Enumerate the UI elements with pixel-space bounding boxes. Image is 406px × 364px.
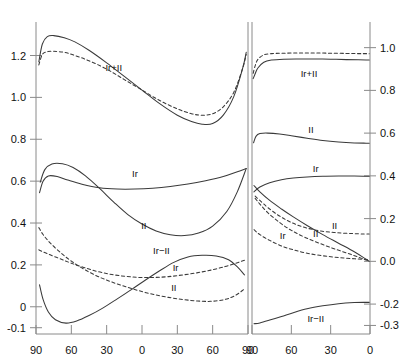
right-panel-curve-label: II (332, 220, 337, 231)
left-panel-xtick-label: 30 (101, 344, 113, 356)
right-panel-ytick-label: 0.0 (380, 255, 395, 267)
left-panel-curve-label: Ir (173, 262, 179, 273)
right-panel-ytick-label: -0.2 (380, 298, 399, 310)
figure-container: 1.21.00.80.60.40.20-0.19060300306090Ir+I… (0, 0, 406, 364)
right-panel-curve-ir-solid (254, 176, 369, 192)
left-panel-curve-label: Ir+II (105, 62, 122, 73)
left-panel-ytick-label: 0.6 (11, 175, 26, 187)
right-panel-ytick-label: -0.3 (380, 319, 399, 331)
right-panel-curve-label: Ir−II (307, 313, 324, 324)
left-panel-xtick-label: 30 (171, 344, 183, 356)
right-panel-curve-label: Ir (313, 163, 319, 174)
right-panel-curve-label: Ir+II (301, 68, 318, 79)
right-panel-ytick-label: 0.8 (380, 84, 395, 96)
right-panel-ytick-label: 1.0 (380, 42, 395, 54)
right-panel-xtick-label: 0 (367, 344, 373, 356)
left-panel-ytick-label: 0.8 (11, 133, 26, 145)
chart-svg: 1.21.00.80.60.40.20-0.19060300306090Ir+I… (0, 0, 406, 364)
left-panel-curve-label: II (171, 282, 176, 293)
right-panel-xtick-label: 90 (246, 344, 258, 356)
left-panel-ytick-label: 0.4 (11, 217, 26, 229)
left-panel-ytick-label: -0.1 (7, 322, 26, 334)
left-panel-xtick-label: 90 (30, 344, 42, 356)
right-panel-curve-ir-dashed (254, 230, 369, 260)
left-panel-xtick-label: 0 (139, 344, 145, 356)
left-panel-xtick-label: 60 (65, 344, 77, 356)
left-panel-ytick-label: 1.2 (11, 50, 26, 62)
right-panel-curve-label: II (308, 124, 313, 135)
right-panel-curve-label: II (313, 228, 318, 239)
right-panel-ytick-label: 0.4 (380, 170, 395, 182)
left-panel-xtick-label: 60 (207, 344, 219, 356)
left-panel-curve-label: Ir−II (153, 245, 170, 256)
right-panel-xtick-label: 30 (325, 344, 337, 356)
left-panel-curve-ir-dashed (39, 250, 245, 278)
left-panel-curve-ii-dashed (39, 228, 245, 302)
right-panel-curve-ir-ii-solid-descending (254, 185, 369, 261)
left-panel-curve-label: II (141, 220, 146, 231)
left-panel-ytick-label: 0 (20, 301, 26, 313)
right-panel-ytick-label: 0.6 (380, 127, 395, 139)
left-panel-curve-ir-ii-solid (40, 255, 245, 323)
left-panel-ytick-label: 1.0 (11, 91, 26, 103)
left-panel-curve-label: Ir (132, 168, 138, 179)
left-panel-ytick-label: 0.2 (11, 259, 26, 271)
right-panel-ytick-label: 0.2 (380, 213, 395, 225)
left-panel-curve-ir-ii-dashed (39, 51, 246, 115)
left-panel-curve-ir-ii-solid (39, 35, 246, 124)
right-panel-curve-label: Ir (280, 230, 286, 241)
right-panel-xtick-label: 60 (285, 344, 297, 356)
left-panel-curve-ir-solid (40, 169, 247, 193)
